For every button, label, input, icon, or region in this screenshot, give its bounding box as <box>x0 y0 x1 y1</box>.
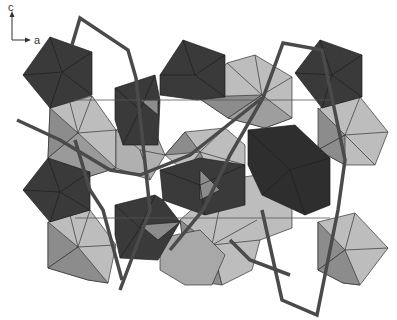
dark-polyhedron <box>23 37 92 108</box>
axis-indicator: c a <box>8 1 41 46</box>
crystal-structure-figure: c a <box>0 0 397 320</box>
light-polyhedron <box>318 97 388 165</box>
axis-label-a: a <box>34 34 41 46</box>
axis-label-c: c <box>8 1 14 13</box>
dark-polyhedron <box>160 158 245 215</box>
dark-polyhedron <box>160 40 225 100</box>
